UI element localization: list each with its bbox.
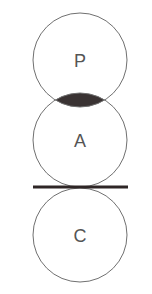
venn-diagram: P A C: [0, 0, 152, 294]
circle-a-label: A: [74, 131, 86, 151]
circle-c-label: C: [74, 226, 87, 246]
circle-p-label: P: [74, 51, 86, 71]
